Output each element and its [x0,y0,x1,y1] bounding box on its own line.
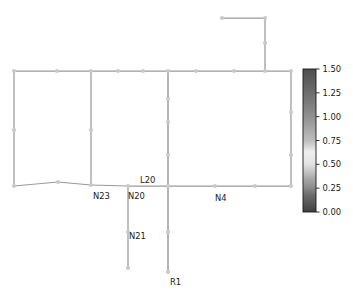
graph-node [263,41,267,45]
colorbar-tick-label: 0.00 [323,207,342,217]
graph-node [289,110,293,114]
node-label: N21 [129,231,146,241]
graph-node [166,270,170,274]
graph-node [126,266,130,270]
graph-node [263,69,267,73]
figure-canvas: N23N20L20N4N21R1 1.501.251.000.750.500.2… [0,0,353,300]
colorbar-tick-label: 0.50 [323,159,342,169]
graph-node [263,16,267,20]
graph-node [141,69,145,73]
colorbar-tick-label: 1.50 [323,64,342,74]
graph-node [289,153,293,157]
graph-node [289,184,293,188]
node-label: N4 [215,193,227,203]
plot-background [0,0,353,300]
colorbar-tick-label: 0.75 [323,136,342,146]
graph-node [116,69,120,73]
graph-node [55,69,59,73]
colorbar-tick-label: 1.25 [323,88,342,98]
graph-node [166,97,170,101]
graph-node [12,69,16,73]
colorbar-tick-label: 1.00 [323,112,342,122]
graph-node [166,184,170,188]
graph-node [126,184,130,188]
graph-node [253,184,257,188]
node-label: L20 [140,175,155,185]
graph-node [220,16,224,20]
graph-node [213,184,217,188]
colorbar-gradient [303,69,316,212]
graph-node [89,128,93,132]
graph-node [194,69,198,73]
graph-node [166,230,170,234]
graph-node [232,69,236,73]
graph-node [56,180,60,184]
graph-node [89,69,93,73]
graph-node [12,184,16,188]
graph-node [12,128,16,132]
colorbar-tick-label: 0.25 [323,183,342,193]
node-label: N23 [93,191,110,201]
graph-node [166,69,170,73]
node-label: R1 [170,277,181,287]
graph-node [166,120,170,124]
graph-node [89,183,93,187]
graph-node [166,153,170,157]
network-diagram: N23N20L20N4N21R1 1.501.251.000.750.500.2… [0,0,353,300]
graph-node [289,69,293,73]
node-label: N20 [128,191,145,201]
